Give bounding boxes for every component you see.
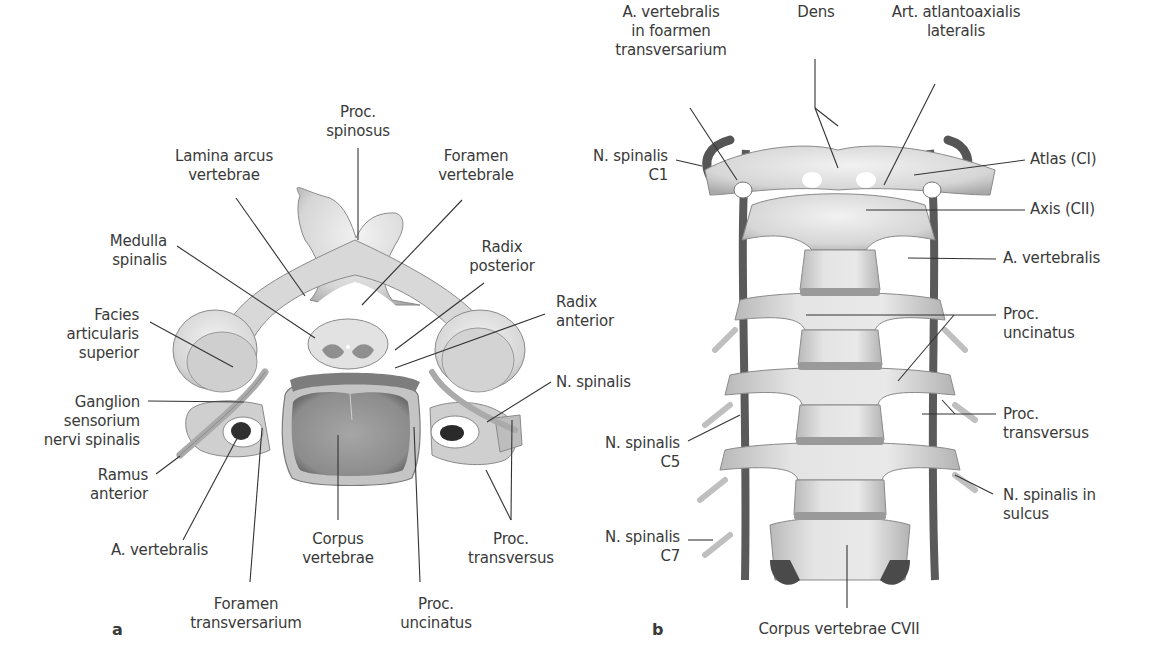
label-n-spinalis-c7: N. spinalis C7: [605, 528, 680, 566]
label-facies-articularis-superior: Facies articularis superior: [67, 306, 139, 363]
label-medulla-spinalis: Medulla spinalis: [110, 232, 167, 270]
label-ramus-anterior: Ramus anterior: [90, 466, 148, 504]
illustration: [0, 0, 1153, 665]
label-axis: Axis (CII): [1030, 200, 1095, 219]
label-a-vertebralis-in-foramen: A. vertebralis in foarmen transversarium: [615, 3, 727, 60]
label-foramen-vertebrale: Foramen vertebrale: [438, 147, 514, 185]
label-foramen-transversarium: Foramen transversarium: [190, 595, 302, 633]
label-proc-transversus: Proc. transversus: [468, 530, 554, 568]
label-lamina-arcus-vertebrae: Lamina arcus vertebrae: [175, 147, 273, 185]
label-proc-transversus-b: Proc. transversus: [1003, 405, 1089, 443]
label-corpus-vertebrae-cvii: Corpus vertebrae CVII: [758, 620, 919, 639]
label-ganglion-sensorium: Ganglion sensorium nervi spinalis: [44, 393, 140, 450]
label-atlas: Atlas (CI): [1030, 150, 1096, 169]
label-n-spinalis-c1: N. spinalis C1: [593, 147, 668, 185]
label-n-spinalis: N. spinalis: [556, 373, 631, 392]
label-n-spinalis-in-sulcus: N. spinalis in sulcus: [1003, 486, 1096, 524]
cervical-spine-anterior-view: [700, 140, 995, 585]
label-corpus-vertebrae: Corpus vertebrae: [302, 530, 374, 568]
label-proc-uncinatus: Proc. uncinatus: [400, 595, 472, 633]
label-art-atlantoaxialis-lateralis: Art. atlantoaxialis lateralis: [892, 3, 1021, 41]
vertebra-superior-view: [173, 187, 525, 485]
label-dens: Dens: [797, 3, 834, 22]
label-proc-spinosus: Proc. spinosus: [326, 103, 390, 141]
panel-letter-b: b: [652, 620, 663, 639]
label-proc-uncinatus-b: Proc. uncinatus: [1003, 305, 1075, 343]
label-a-vertebralis-b: A. vertebralis: [1003, 249, 1100, 268]
label-a-vertebralis: A. vertebralis: [111, 541, 208, 560]
anatomy-figure: Proc. spinosus Lamina arcus vertebrae Fo…: [0, 0, 1153, 665]
label-radix-anterior: Radix anterior: [556, 293, 614, 331]
label-n-spinalis-c5: N. spinalis C5: [605, 434, 680, 472]
panel-letter-a: a: [112, 620, 123, 639]
spinal-cord: [308, 319, 388, 369]
label-radix-posterior: Radix posterior: [469, 238, 535, 276]
